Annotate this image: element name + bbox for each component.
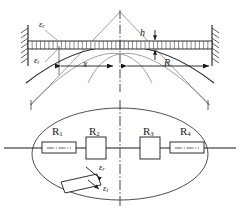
strain-gauge-R3 <box>140 137 160 159</box>
fixed-support-right <box>212 25 219 66</box>
label-dimension-R: R <box>164 58 170 68</box>
label-strain-radial-upper: εr <box>39 20 45 30</box>
label-strain-tangential-upper: εt <box>34 56 39 66</box>
strain-gauge-R2 <box>86 137 106 159</box>
label-callout-strain-radial: εr <box>99 163 105 173</box>
engineering-figure: εr εt h x R R1 R2 R3 R4 εr εt <box>0 0 240 210</box>
figure-vector-canvas <box>0 0 240 210</box>
label-gauge-R1: R1 <box>52 126 63 138</box>
construction-curve-right <box>88 53 210 105</box>
upper-view-group <box>21 10 219 105</box>
strain-gauge-R1 <box>42 142 76 153</box>
label-thickness-h: h <box>140 28 145 38</box>
label-gauge-R2: R2 <box>89 126 100 138</box>
arrow-strain-radial <box>86 167 97 176</box>
strain-gauge-R4 <box>170 142 204 153</box>
label-gauge-R3: R3 <box>143 126 154 138</box>
leader-strain-bottom <box>45 50 57 62</box>
fixed-support-left <box>21 25 28 66</box>
inclined-gauge-body <box>61 174 101 193</box>
label-dimension-x: x <box>83 59 87 69</box>
lower-view-group <box>4 100 236 208</box>
construction-curve-left <box>30 53 152 105</box>
leader-strain-top <box>45 30 57 40</box>
label-gauge-R4: R4 <box>180 126 191 138</box>
label-callout-strain-tangential: εt <box>103 184 108 194</box>
inclined-gauge-callout <box>61 167 101 193</box>
